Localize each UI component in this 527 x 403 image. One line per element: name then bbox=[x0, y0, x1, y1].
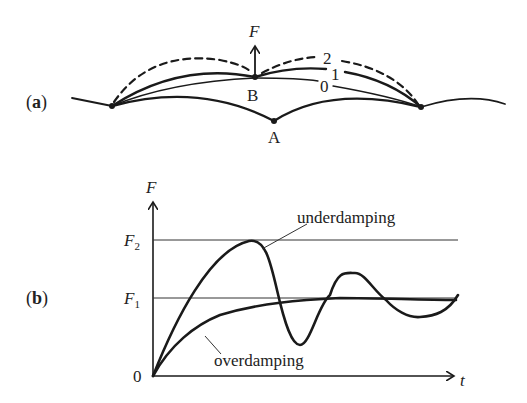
underdamping-label: underdamping bbox=[297, 208, 396, 227]
arc-a-to-right bbox=[274, 99, 421, 121]
panel-b: (b) F t 0 F2 F1 underdamping overdamping bbox=[26, 178, 466, 390]
right-baseline-segment bbox=[421, 99, 505, 107]
point-a-label: A bbox=[268, 128, 281, 147]
underdamping-leader-line bbox=[262, 224, 307, 249]
curve-0-label: 0 bbox=[320, 77, 329, 96]
panel-a-label: (a) bbox=[26, 92, 47, 113]
curve-1-label: 1 bbox=[331, 65, 340, 84]
f2-label: F2 bbox=[123, 231, 140, 252]
point-b-label: B bbox=[247, 86, 258, 105]
point-a-marker bbox=[271, 118, 277, 124]
curve-1-right bbox=[345, 72, 421, 107]
point-b-marker bbox=[252, 74, 258, 80]
curve-0-left bbox=[112, 78, 318, 106]
underdamping-curve bbox=[153, 241, 458, 376]
right-support-point bbox=[418, 104, 424, 110]
force-label: F bbox=[248, 22, 260, 41]
panel-a: (a) F B A 0 1 2 bbox=[26, 22, 505, 147]
curve-2-label: 2 bbox=[323, 49, 332, 68]
origin-label: 0 bbox=[133, 367, 142, 386]
figure-canvas: (a) F B A 0 1 2 (b) bbox=[0, 0, 527, 403]
overdamping-curve bbox=[153, 298, 456, 376]
left-baseline-segment bbox=[72, 98, 112, 106]
y-axis-label: F bbox=[145, 178, 157, 197]
overdamping-label: overdamping bbox=[214, 351, 304, 370]
panel-b-label: (b) bbox=[26, 288, 48, 309]
left-support-point bbox=[109, 103, 115, 109]
curve-1-mid bbox=[255, 68, 326, 77]
f1-label: F1 bbox=[123, 289, 140, 310]
x-axis-label: t bbox=[460, 371, 466, 390]
